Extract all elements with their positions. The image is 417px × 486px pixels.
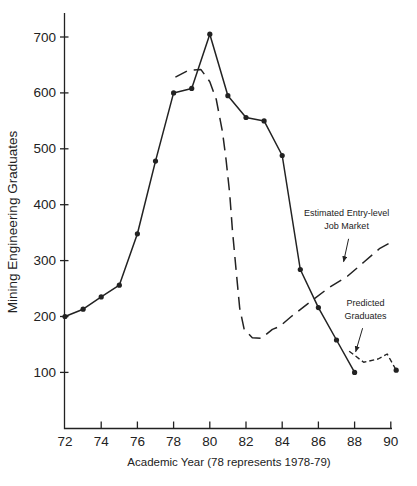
series-marker-actual-graduates [334,337,339,342]
series-marker-actual-graduates [280,153,285,158]
y-tick-label: 700 [33,30,56,45]
job-market-label-text: Estimated Entry-levelJob Market [304,208,389,231]
series-marker-actual-graduates [207,32,212,37]
series-marker-actual-graduates [99,294,104,299]
chart-canvas: 1002003004005006007007274767880828486889… [0,0,417,486]
series-line-predicted-graduates [349,351,396,370]
predicted-graduates-label-arrow [356,328,363,352]
series-line-actual-graduates [65,34,355,372]
series-marker-actual-graduates [262,118,267,123]
y-tick-label: 600 [33,85,56,100]
x-tick-label: 74 [94,434,110,449]
x-tick-label: 80 [202,434,217,449]
x-tick-label: 86 [311,434,326,449]
chart-figure: 1002003004005006007007274767880828486889… [0,0,417,486]
job-market-label-arrow [344,239,349,262]
series-marker-actual-graduates [298,267,303,272]
x-tick-label: 90 [383,434,398,449]
annotations: Estimated Entry-levelJob MarketPredicted… [304,208,389,352]
series-marker-actual-graduates [62,314,67,319]
x-tick-label: 72 [57,434,72,449]
x-axis-title: Academic Year (78 represents 1978-79) [127,456,330,468]
series-marker-actual-graduates [352,370,357,375]
y-axis-title: Mining Engineering Graduates [5,131,20,314]
series-marker-predicted-graduates [394,368,399,373]
y-tick-label: 200 [33,309,56,324]
series-marker-actual-graduates [243,115,248,120]
y-tick-label: 400 [33,197,56,212]
x-tick-label: 78 [166,434,181,449]
x-tick-label: 76 [130,434,145,449]
axes: 1002003004005006007007274767880828486889… [33,13,398,449]
x-tick-label: 84 [275,434,291,449]
series-marker-actual-graduates [171,90,176,95]
y-tick-label: 500 [33,141,56,156]
series-marker-actual-graduates [117,283,122,288]
series-marker-actual-graduates [316,305,321,310]
data-series [62,32,398,375]
x-tick-label: 88 [347,434,362,449]
predicted-graduates-label-text: PredictedGraduates [344,298,387,321]
series-marker-actual-graduates [225,93,230,98]
y-tick-label: 100 [33,365,56,380]
series-marker-actual-graduates [135,231,140,236]
y-tick-label: 300 [33,253,56,268]
series-marker-actual-graduates [189,86,194,91]
x-tick-label: 82 [238,434,253,449]
series-marker-actual-graduates [153,159,158,164]
series-marker-actual-graduates [81,307,86,312]
